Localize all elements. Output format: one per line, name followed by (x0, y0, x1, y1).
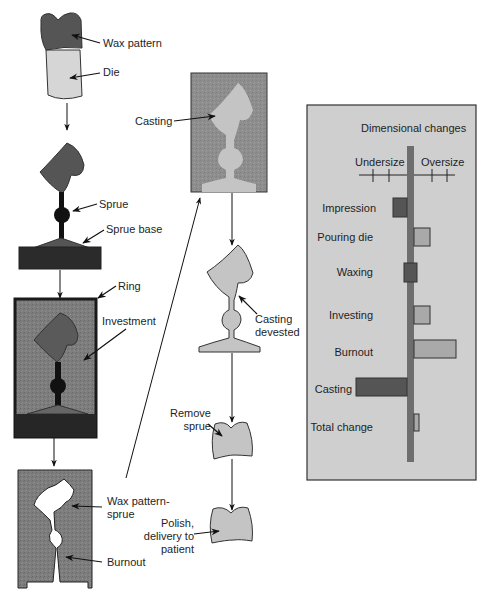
bar-pouring-die (414, 228, 430, 246)
category-label: Waxing (300, 266, 373, 279)
label-ring: Ring (118, 280, 141, 293)
label-sprue: Sprue (99, 198, 128, 211)
sprued-pattern (19, 143, 104, 298)
bar-impression (393, 198, 407, 217)
category-label: Investing (300, 309, 373, 322)
bar-burnout (414, 340, 456, 358)
label-wax-pattern: Wax pattern (103, 37, 162, 50)
label-casting-devested: Casting devested (255, 313, 300, 339)
casting-in-mold (174, 73, 267, 245)
casting-sprue-removed (208, 422, 252, 510)
label-remove-sprue: Remove sprue (166, 407, 211, 433)
label-casting: Casting (135, 115, 172, 128)
chart-title: Dimensional changes (361, 122, 466, 135)
casting-devested (199, 245, 260, 422)
bar-waxing (404, 263, 417, 282)
invested-ring (15, 286, 126, 466)
category-label: Impression (300, 202, 376, 215)
label-polish-delivery: Polish, delivery to patient (132, 517, 194, 556)
diagram-graphics (0, 0, 490, 598)
bar-casting (356, 378, 407, 396)
bar-investing (414, 306, 430, 324)
label-die: Die (103, 66, 120, 79)
axis-label-oversize: Oversize (421, 156, 464, 169)
category-label: Pouring die (300, 231, 373, 244)
investment-casting-diagram: Wax pattern Die Sprue Sprue base Ring In… (0, 0, 490, 598)
label-burnout: Burnout (107, 556, 146, 569)
polished-crown (194, 507, 253, 543)
label-sprue-base: Sprue base (106, 223, 162, 236)
category-label: Casting (300, 383, 352, 396)
label-investment: Investment (102, 315, 156, 328)
axis-label-undersize: Undersize (355, 156, 405, 169)
wax-pattern-on-die (41, 13, 100, 130)
bar-total-change (414, 414, 419, 431)
category-label: Total change (300, 421, 373, 434)
category-label: Burnout (300, 346, 373, 359)
